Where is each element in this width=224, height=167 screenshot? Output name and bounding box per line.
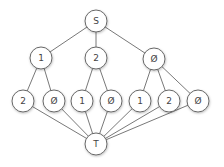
node-label: Ø xyxy=(50,96,57,106)
node-b2: Ø xyxy=(43,90,65,112)
node-label: Ø xyxy=(150,54,157,64)
node-a3: Ø xyxy=(143,48,165,70)
node-b7: Ø xyxy=(187,90,209,112)
graph-diagram: S12Ø2Ø1Ø12ØT xyxy=(0,0,224,167)
node-label: 2 xyxy=(166,96,172,106)
node-label: T xyxy=(92,139,99,149)
node-b1: 2 xyxy=(12,90,34,112)
node-S: S xyxy=(85,10,107,32)
node-label: 1 xyxy=(38,53,44,63)
nodes-layer: S12Ø2Ø1Ø12ØT xyxy=(12,10,209,155)
node-b3: 1 xyxy=(71,90,93,112)
node-b5: 1 xyxy=(129,90,151,112)
node-a1: 1 xyxy=(30,47,52,69)
node-T: T xyxy=(85,133,107,155)
edges-layer xyxy=(23,21,198,144)
node-label: S xyxy=(93,16,99,26)
node-a2: 2 xyxy=(85,47,107,69)
node-label: 2 xyxy=(93,53,99,63)
node-label: 1 xyxy=(79,96,85,106)
node-label: Ø xyxy=(194,96,201,106)
node-b6: 2 xyxy=(158,90,180,112)
node-label: 1 xyxy=(137,96,143,106)
node-b4: Ø xyxy=(100,90,122,112)
node-label: Ø xyxy=(107,96,114,106)
node-label: 2 xyxy=(20,96,26,106)
